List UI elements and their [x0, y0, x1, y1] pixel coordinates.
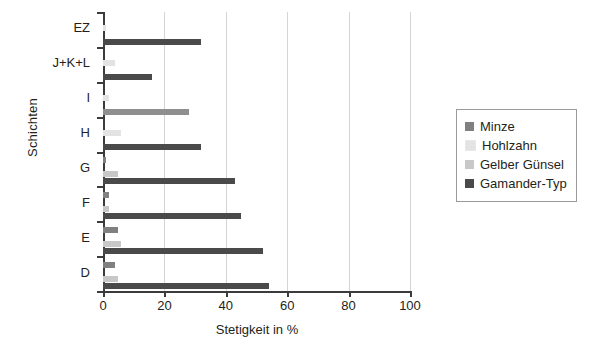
x-axis-tick-label: 80 — [329, 298, 369, 313]
x-axis-title: Stetigkeit in % — [103, 322, 411, 337]
bar-group — [103, 53, 410, 80]
legend-item: Minze — [465, 117, 567, 136]
bar — [103, 109, 189, 115]
y-axis-tick-label: E — [0, 230, 90, 245]
bar-group — [103, 18, 410, 45]
y-axis-tick — [97, 186, 103, 188]
legend-label: Gelber Günsel — [480, 157, 564, 172]
bar — [103, 130, 121, 136]
bar — [103, 213, 241, 219]
bar — [103, 74, 152, 80]
bar — [103, 144, 201, 150]
y-axis-tick — [97, 47, 103, 49]
x-axis-tick-label: 100 — [390, 298, 430, 313]
bar — [103, 178, 235, 184]
x-axis-tick — [226, 291, 228, 297]
y-axis-tick — [97, 256, 103, 258]
bar — [103, 60, 115, 66]
bar — [103, 95, 109, 101]
bar-group — [103, 157, 410, 184]
gridline — [410, 12, 411, 291]
bar — [103, 227, 118, 233]
legend-item: Gamander-Typ — [465, 174, 567, 193]
bar-group — [103, 88, 410, 115]
x-axis-tick — [410, 291, 412, 297]
x-axis-tick — [349, 291, 351, 297]
bar — [103, 25, 106, 31]
y-axis-tick-label: J+K+L — [0, 55, 90, 70]
y-axis-tick-label: F — [0, 195, 90, 210]
bar — [103, 262, 115, 268]
bar-group — [103, 192, 410, 219]
y-axis-tick-label: I — [0, 90, 90, 105]
legend-swatch — [465, 122, 474, 131]
bar — [103, 171, 118, 177]
legend-swatch — [465, 160, 474, 169]
bar — [103, 192, 109, 198]
x-axis-tick-label: 20 — [144, 298, 184, 313]
x-axis-tick — [103, 291, 105, 297]
bar — [103, 157, 106, 163]
y-axis-tick — [97, 82, 103, 84]
legend-swatch — [465, 140, 476, 151]
y-axis-tick-label: EZ — [0, 20, 90, 35]
x-axis-tick — [287, 291, 289, 297]
y-axis-tick-label: H — [0, 125, 90, 140]
y-axis-tick-label: D — [0, 265, 90, 280]
x-axis-tick-label: 0 — [83, 298, 123, 313]
legend-label: Gamander-Typ — [480, 176, 567, 191]
x-axis-line — [103, 291, 411, 293]
bar-chart: Schichten Stetigkeit in % 020406080100 E… — [0, 0, 593, 349]
chart-legend: MinzeHohlzahnGelber GünselGamander-Typ — [456, 109, 577, 202]
bar — [103, 248, 263, 254]
y-axis-tick — [97, 221, 103, 223]
y-axis-tick — [97, 152, 103, 154]
bar-group — [103, 123, 410, 150]
y-axis-tick-label: G — [0, 160, 90, 175]
legend-item: Gelber Günsel — [465, 155, 567, 174]
x-axis-tick-label: 40 — [206, 298, 246, 313]
bar — [103, 39, 201, 45]
legend-label: Minze — [480, 119, 515, 134]
x-axis-tick-label: 60 — [267, 298, 307, 313]
y-axis-tick — [97, 291, 103, 293]
bar-group — [103, 227, 410, 254]
legend-item: Hohlzahn — [465, 136, 567, 155]
legend-label: Hohlzahn — [482, 138, 537, 153]
x-axis-tick — [164, 291, 166, 297]
bar — [103, 283, 269, 289]
y-axis-tick — [97, 117, 103, 119]
legend-swatch — [465, 179, 474, 188]
bar — [103, 241, 121, 247]
bar-group — [103, 262, 410, 289]
bar — [103, 206, 109, 212]
bar — [103, 276, 118, 282]
y-axis-tick — [97, 12, 103, 14]
